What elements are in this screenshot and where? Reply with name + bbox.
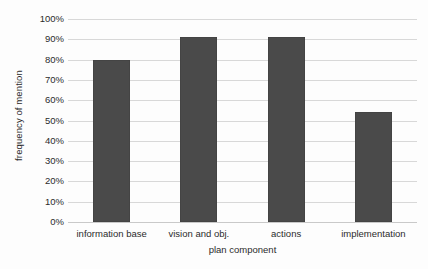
gridline-0pct — [68, 222, 417, 223]
y-tick-label: 90% — [24, 34, 64, 44]
y-tick-label: 70% — [24, 75, 64, 85]
x-tick-label: actions — [243, 228, 330, 240]
y-axis-tick-labels: 0%10%20%30%40%50%60%70%80%90%100% — [24, 19, 64, 222]
y-axis-title: frequency of mention — [13, 46, 24, 186]
y-tick-label: 0% — [24, 217, 64, 227]
y-tick-label: 40% — [24, 136, 64, 146]
x-tick-label: vision and obj. — [155, 228, 242, 240]
y-tick-label: 30% — [24, 156, 64, 166]
y-tick-label: 100% — [24, 14, 64, 24]
x-tick-label: implementation — [330, 228, 417, 240]
x-axis-tick-labels: information basevision and obj.actionsim… — [68, 228, 417, 242]
bar-chart-figure: frequency of mention 0%10%20%30%40%50%60… — [0, 0, 428, 269]
bar — [180, 37, 217, 222]
x-tick-label: information base — [68, 228, 155, 240]
bars-group — [68, 19, 417, 222]
y-tick-label: 50% — [24, 116, 64, 126]
x-axis-title: plan component — [68, 244, 417, 255]
bar — [268, 37, 305, 222]
bar — [355, 112, 392, 222]
y-tick-label: 10% — [24, 197, 64, 207]
plot-area — [68, 19, 417, 222]
y-tick-label: 20% — [24, 176, 64, 186]
y-tick-label: 80% — [24, 55, 64, 65]
bar — [93, 60, 130, 222]
y-tick-label: 60% — [24, 95, 64, 105]
